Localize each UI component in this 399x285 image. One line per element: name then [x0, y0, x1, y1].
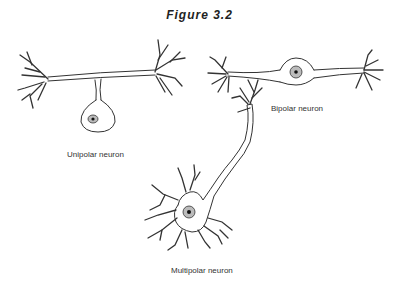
multipolar-neuron-label: Multipolar neuron — [171, 266, 233, 275]
unipolar-neuron-label: Unipolar neuron — [67, 150, 124, 159]
multipolar-neuron-drawing — [145, 80, 262, 250]
bipolar-neuron-label: Bipolar neuron — [271, 104, 323, 113]
neuron-diagram — [0, 0, 399, 285]
bipolar-neuron-drawing — [208, 50, 383, 92]
unipolar-neuron-drawing — [18, 40, 185, 132]
